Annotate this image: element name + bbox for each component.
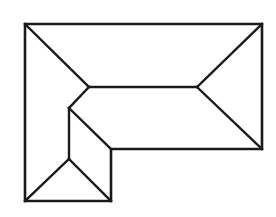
valley-upper-line	[69, 87, 89, 108]
valley-inner-line	[69, 108, 111, 149]
hip-top-left-line	[25, 24, 89, 87]
hip-bottom-right-line	[197, 87, 262, 149]
roof-outline	[25, 24, 262, 201]
hip-top-right-line	[197, 24, 262, 87]
roof-lines	[25, 24, 262, 201]
hip-bottom-inner-line	[69, 159, 111, 201]
hip-bottom-left-line	[25, 159, 69, 201]
roof-plan-diagram	[0, 0, 276, 217]
